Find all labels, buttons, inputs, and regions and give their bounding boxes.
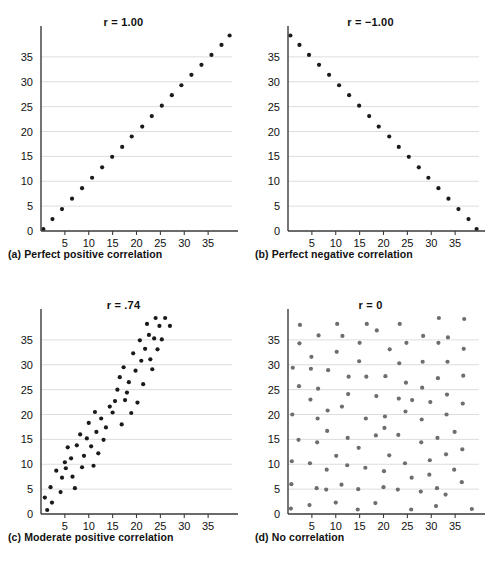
svg-text:5: 5	[27, 200, 33, 212]
svg-text:30: 30	[425, 237, 437, 249]
panel-b-plot-area: 051015202530355101520253035	[247, 0, 494, 283]
svg-text:15: 15	[268, 150, 280, 162]
panel-c-scatter-svg: 051015202530355101520253035	[0, 283, 247, 566]
gridlines	[41, 57, 232, 206]
svg-text:30: 30	[21, 76, 33, 88]
svg-text:10: 10	[268, 458, 280, 470]
svg-text:35: 35	[202, 520, 214, 532]
svg-text:20: 20	[377, 520, 389, 532]
svg-text:30: 30	[268, 359, 280, 371]
svg-text:35: 35	[21, 334, 33, 346]
panel-d-no-correlation: r = 0 051015202530355101520253035 (d) No…	[247, 283, 494, 566]
svg-text:5: 5	[274, 200, 280, 212]
svg-text:30: 30	[425, 520, 437, 532]
svg-text:10: 10	[268, 175, 280, 187]
panel-c-plot-area: 051015202530355101520253035	[0, 283, 247, 566]
x-axis-tick-labels: 5101520253035	[309, 514, 461, 532]
svg-text:5: 5	[274, 483, 280, 495]
svg-text:10: 10	[21, 458, 33, 470]
panel-b-caption: (b) Perfect negative correlation	[255, 248, 413, 260]
svg-text:35: 35	[449, 237, 461, 249]
svg-text:20: 20	[21, 126, 33, 138]
panel-a-perfect-positive: r = 1.00 051015202530355101520253035 (a)…	[0, 0, 247, 283]
panel-b-perfect-negative: r = −1.00 051015202530355101520253035 (b…	[247, 0, 494, 283]
panel-c-caption: (c) Moderate positive correlation	[8, 531, 174, 543]
svg-text:15: 15	[21, 433, 33, 445]
y-axis-tick-labels: 05101520253035	[268, 51, 280, 237]
svg-text:35: 35	[202, 237, 214, 249]
svg-text:10: 10	[21, 175, 33, 187]
correlation-scatterplot-figure: r = 1.00 051015202530355101520253035 (a)…	[0, 0, 494, 566]
panel-d-caption: (d) No correlation	[255, 531, 344, 543]
data-points	[289, 316, 474, 512]
panel-d-plot-area: 051015202530355101520253035	[247, 283, 494, 566]
svg-text:35: 35	[268, 51, 280, 63]
gridlines	[41, 340, 232, 489]
svg-text:25: 25	[268, 384, 280, 396]
svg-text:0: 0	[27, 508, 33, 520]
panel-c-moderate-positive: r = .74 051015202530355101520253035 (c) …	[0, 283, 247, 566]
svg-text:35: 35	[268, 334, 280, 346]
svg-text:35: 35	[21, 51, 33, 63]
data-points	[288, 33, 478, 231]
x-axis-tick-labels: 5101520253035	[309, 231, 461, 249]
svg-text:30: 30	[21, 359, 33, 371]
svg-text:20: 20	[268, 126, 280, 138]
svg-text:30: 30	[268, 76, 280, 88]
data-points	[43, 316, 172, 512]
gridlines	[288, 57, 479, 206]
svg-text:0: 0	[274, 508, 280, 520]
x-axis-tick-labels: 5101520253035	[62, 514, 214, 532]
svg-text:15: 15	[268, 433, 280, 445]
svg-text:30: 30	[178, 520, 190, 532]
panel-a-scatter-svg: 051015202530355101520253035	[0, 0, 247, 283]
svg-text:30: 30	[178, 237, 190, 249]
svg-text:25: 25	[268, 101, 280, 113]
panel-a-caption: (a) Perfect positive correlation	[8, 248, 162, 260]
svg-text:35: 35	[449, 520, 461, 532]
svg-text:25: 25	[21, 384, 33, 396]
y-axis-tick-labels: 05101520253035	[21, 334, 33, 520]
panel-b-scatter-svg: 051015202530355101520253035	[247, 0, 494, 283]
svg-text:20: 20	[21, 409, 33, 421]
svg-text:25: 25	[21, 101, 33, 113]
gridlines	[288, 340, 479, 489]
panel-a-plot-area: 051015202530355101520253035	[0, 0, 247, 283]
data-points	[41, 33, 231, 231]
x-axis-tick-labels: 5101520253035	[62, 231, 214, 249]
svg-text:25: 25	[401, 520, 413, 532]
svg-text:0: 0	[27, 225, 33, 237]
svg-text:20: 20	[268, 409, 280, 421]
svg-text:15: 15	[354, 520, 366, 532]
y-axis-tick-labels: 05101520253035	[21, 51, 33, 237]
y-axis-tick-labels: 05101520253035	[268, 334, 280, 520]
svg-text:15: 15	[21, 150, 33, 162]
svg-text:5: 5	[27, 483, 33, 495]
panel-d-scatter-svg: 051015202530355101520253035	[247, 283, 494, 566]
svg-text:0: 0	[274, 225, 280, 237]
